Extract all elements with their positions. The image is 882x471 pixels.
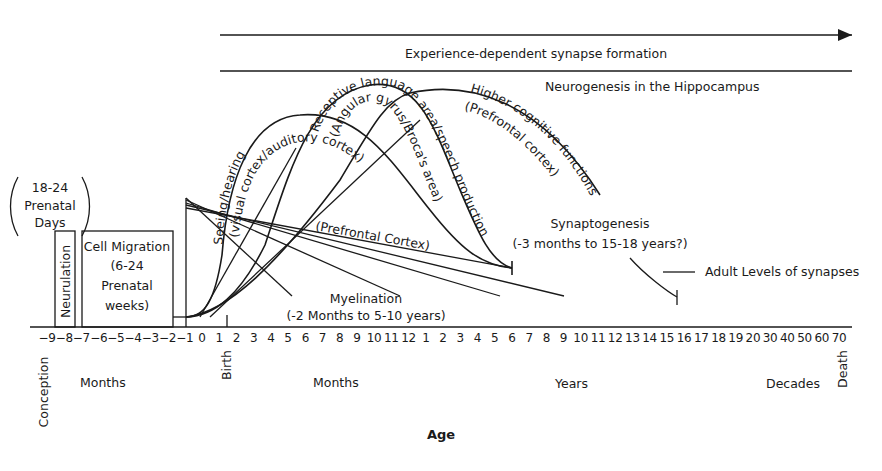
axis-tick-label: −8 <box>56 331 73 345</box>
axis-tick-label: 30 <box>763 331 778 345</box>
axis-tick-label: −5 <box>107 331 124 345</box>
axis-tick-label: −9 <box>38 331 55 345</box>
axis-tick-label: 7 <box>525 331 532 345</box>
years-label: Years <box>554 376 588 391</box>
prenatal-months-label: Months <box>80 375 126 390</box>
birth-label: Birth <box>219 350 234 380</box>
axis-tick-labels: −9−8−7−6−5−4−3−2−10123456789101112123456… <box>38 331 846 345</box>
decades-label: Decades <box>766 376 820 391</box>
axis-tick-label: −4 <box>125 331 142 345</box>
cell-migration-line3: Prenatal <box>101 278 153 293</box>
axis-tick-label: 8 <box>543 331 550 345</box>
axis-tick-label: 4 <box>474 331 481 345</box>
axis-tick-label: 3 <box>250 331 257 345</box>
axis-tick-label: 10 <box>573 331 588 345</box>
axis-tick-label: 10 <box>367 331 382 345</box>
conception-label: Conception <box>36 357 51 428</box>
synaptogenesis-decline-line <box>630 258 677 297</box>
axis-tick-label: 2 <box>233 331 240 345</box>
axis-tick-label: 6 <box>302 331 309 345</box>
axis-tick-label: 4 <box>267 331 274 345</box>
neurulation-days-line2: Prenatal <box>24 198 76 213</box>
axis-tick-label: 5 <box>284 331 291 345</box>
axis-tick-label: −2 <box>159 331 176 345</box>
higher-cognitive-label: Higher cognitive functions <box>469 80 601 198</box>
axis-tick-label: 14 <box>642 331 657 345</box>
axis-tick-label: 70 <box>832 331 847 345</box>
axis-tick-label: 16 <box>677 331 692 345</box>
postnatal-months-label: Months <box>313 375 359 390</box>
death-label: Death <box>835 350 850 388</box>
cell-migration-line1: Cell Migration <box>84 239 170 254</box>
axis-tick-label: 11 <box>591 331 606 345</box>
cell-migration-line4: weeks) <box>105 298 149 313</box>
axis-tick-label: −6 <box>90 331 107 345</box>
axis-tick-label: 12 <box>401 331 416 345</box>
axis-tick-label: 50 <box>797 331 812 345</box>
axis-tick-label: 19 <box>728 331 743 345</box>
axis-tick-label: 1 <box>422 331 429 345</box>
brain-development-diagram: Experience-dependent synapse formation N… <box>0 0 882 471</box>
axis-tick-label: 1 <box>216 331 223 345</box>
myelination-range: (-2 Months to 5-10 years) <box>286 308 445 323</box>
axis-tick-label: −3 <box>142 331 159 345</box>
cell-migration-line2: (6-24 <box>110 258 143 273</box>
visual-auditory-label: (visual cortex/auditory cortex) <box>226 129 368 238</box>
synaptogenesis-range: (-3 months to 15-18 years?) <box>512 236 687 251</box>
axis-tick-label: 20 <box>746 331 761 345</box>
axis-tick-label: 60 <box>814 331 829 345</box>
axis-tick-label: 3 <box>457 331 464 345</box>
axis-tick-label: 11 <box>384 331 399 345</box>
axis-tick-label: 9 <box>560 331 567 345</box>
axis-tick-label: 12 <box>608 331 623 345</box>
axis-tick-label: 18 <box>711 331 726 345</box>
neurulation-label: Neurulation <box>58 245 73 318</box>
axis-tick-label: 8 <box>336 331 343 345</box>
axis-tick-label: 2 <box>439 331 446 345</box>
neurogenesis-label: Neurogenesis in the Hippocampus <box>545 79 760 94</box>
axis-tick-label: 15 <box>659 331 674 345</box>
axis-tick-label: 5 <box>491 331 498 345</box>
arrowhead-icon <box>838 29 852 41</box>
right-paren <box>82 177 90 236</box>
axis-tick-label: 17 <box>694 331 709 345</box>
axis-tick-label: 13 <box>625 331 640 345</box>
experience-label: Experience-dependent synapse formation <box>405 46 667 61</box>
axis-tick-label: −7 <box>73 331 90 345</box>
myelination-label: Myelination <box>330 291 402 306</box>
axis-tick-label: 7 <box>319 331 326 345</box>
neurulation-days-line1: 18-24 <box>32 180 68 195</box>
neurulation-days-line3: Days <box>34 215 65 230</box>
adult-levels-label: Adult Levels of synapses <box>705 264 859 279</box>
axis-tick-label: 9 <box>353 331 360 345</box>
myelination-prefrontal-label: (Prefrontal Cortex) <box>314 218 431 253</box>
synaptogenesis-label: Synaptogenesis <box>550 216 649 231</box>
left-paren <box>11 177 19 236</box>
axis-tick-label: −1 <box>176 331 193 345</box>
axis-tick-label: 40 <box>780 331 795 345</box>
axis-tick-label: 0 <box>198 331 205 345</box>
axis-tick-label: 6 <box>508 331 515 345</box>
age-axis-title: Age <box>427 427 455 442</box>
